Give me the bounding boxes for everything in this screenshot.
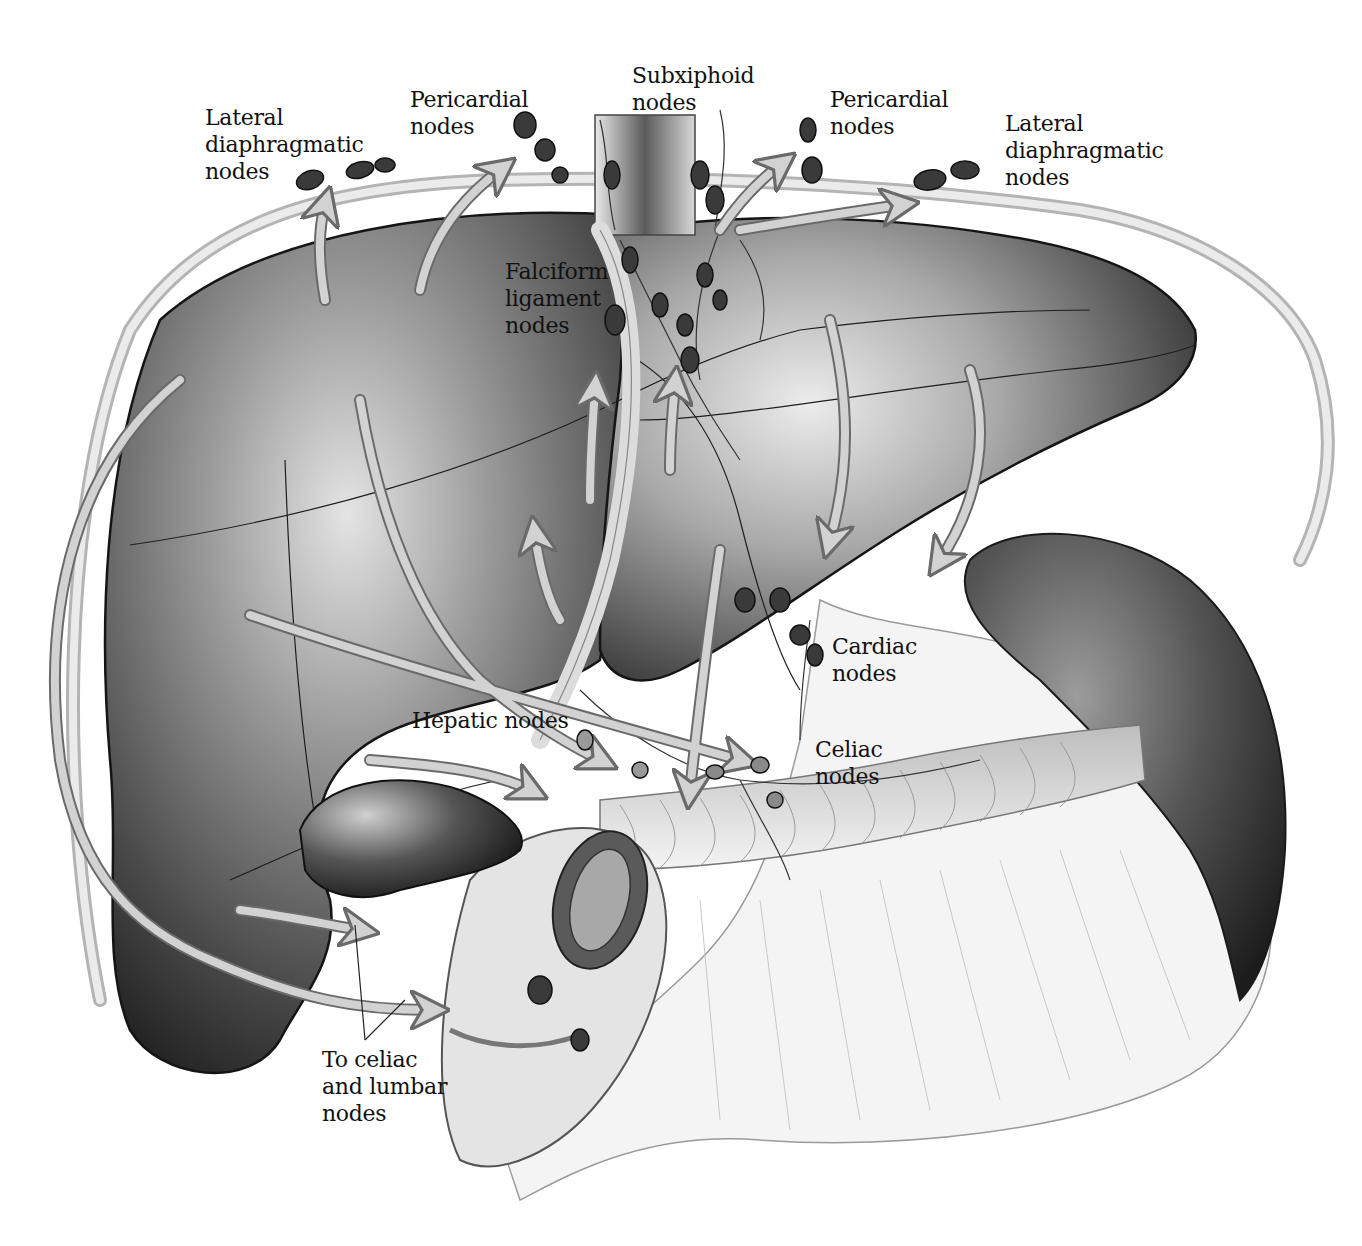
label-hepatic-nodes: Hepatic nodes	[412, 707, 569, 734]
label-celiac-nodes: Celiac nodes	[815, 736, 883, 790]
label-falciform-ligament-nodes: Falciform ligament nodes	[505, 258, 608, 339]
leader-lines	[355, 925, 405, 1040]
label-subxiphoid-nodes: Subxiphoid nodes	[632, 62, 754, 116]
label-pericardial-nodes-right: Pericardial nodes	[830, 86, 948, 140]
label-to-celiac-and-lumbar-nodes: To celiac and lumbar nodes	[322, 1046, 447, 1127]
liver-lymphatic-diagram: Lateral diaphragmatic nodes Pericardial …	[0, 0, 1362, 1246]
label-cardiac-nodes: Cardiac nodes	[832, 633, 917, 687]
label-lateral-diaphragmatic-nodes-right: Lateral diaphragmatic nodes	[1005, 110, 1163, 191]
label-pericardial-nodes-left: Pericardial nodes	[410, 86, 528, 140]
label-lateral-diaphragmatic-nodes-left: Lateral diaphragmatic nodes	[205, 104, 363, 185]
